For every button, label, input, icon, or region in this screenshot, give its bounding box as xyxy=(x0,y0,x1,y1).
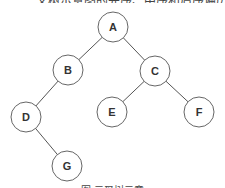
edges xyxy=(26,27,199,166)
node-b: B xyxy=(53,55,83,85)
svg-text:C: C xyxy=(151,65,159,77)
node-g: G xyxy=(52,151,82,181)
svg-text:A: A xyxy=(109,21,117,33)
binary-tree-diagram: A B C D E F G xyxy=(0,0,225,188)
svg-text:F: F xyxy=(196,106,203,118)
node-d: D xyxy=(11,102,41,132)
figure-caption: 图 二叉树示意 xyxy=(0,182,225,188)
node-f: F xyxy=(184,97,214,127)
node-a: A xyxy=(98,12,128,42)
svg-text:D: D xyxy=(22,111,30,123)
node-c: C xyxy=(140,56,170,86)
node-e: E xyxy=(97,97,127,127)
svg-text:B: B xyxy=(64,64,72,76)
svg-text:E: E xyxy=(108,106,115,118)
svg-text:G: G xyxy=(63,160,72,172)
